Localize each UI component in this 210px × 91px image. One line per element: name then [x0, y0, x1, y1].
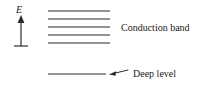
energy-axis-arrowhead	[18, 15, 25, 23]
energy-axis-label: E	[15, 4, 22, 15]
deep-level-label: Deep level	[133, 68, 176, 79]
energy-band-diagram: E Conduction band Deep level	[0, 0, 210, 91]
deep-level-leader-arrowhead	[109, 71, 116, 76]
diagram-canvas: E Conduction band Deep level	[0, 0, 210, 91]
conduction-band-label: Conduction band	[121, 22, 190, 33]
conduction-band-levels	[48, 11, 110, 43]
